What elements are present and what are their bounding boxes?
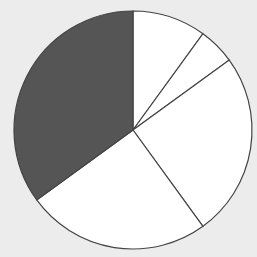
pie-chart	[0, 0, 257, 257]
